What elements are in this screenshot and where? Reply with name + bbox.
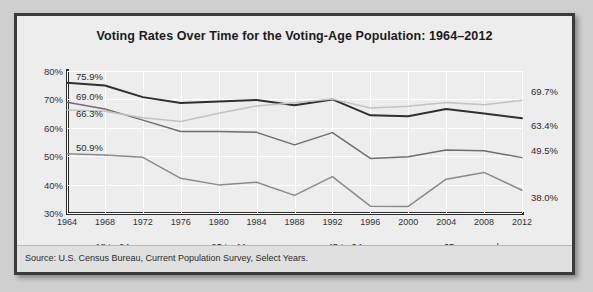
gridline-horizontal	[67, 213, 522, 214]
x-tick-label: 1980	[199, 217, 239, 227]
y-tick-label: 40%	[21, 179, 63, 190]
x-tick-label: 1964	[47, 217, 87, 227]
series-line	[67, 83, 522, 119]
chart-title: Voting Rates Over Time for the Voting-Ag…	[17, 29, 572, 43]
x-tick-label: 2004	[426, 217, 466, 227]
source-bar: Source: U.S. Census Bureau, Current Popu…	[17, 245, 572, 272]
x-tick-label: 1976	[161, 217, 201, 227]
data-label: 69.7%	[531, 86, 558, 97]
x-tick-label: 1996	[350, 217, 390, 227]
data-label: 50.9%	[76, 142, 103, 153]
x-tick-label: 2008	[464, 217, 504, 227]
data-label: 63.4%	[531, 120, 558, 131]
source-note: Source: U.S. Census Bureau, Current Popu…	[25, 253, 308, 263]
x-tick-label: 1968	[85, 217, 125, 227]
x-tick-label: 2012	[502, 217, 542, 227]
y-tick-label: 70%	[21, 94, 63, 105]
data-label: 49.5%	[531, 145, 558, 156]
y-tick-label: 60%	[21, 122, 63, 133]
x-tick-label: 1992	[312, 217, 352, 227]
y-tick-label: 80%	[21, 66, 63, 77]
gridline-vertical	[522, 71, 523, 213]
x-tick-label: 1988	[275, 217, 315, 227]
x-tick-label: 1972	[123, 217, 163, 227]
series-line	[67, 154, 522, 207]
x-tick-label: 2000	[388, 217, 428, 227]
series-lines	[67, 71, 522, 213]
plot-area	[67, 71, 522, 213]
data-label: 38.0%	[531, 192, 558, 203]
data-label: 75.9%	[76, 71, 103, 82]
data-label: 69.0%	[76, 91, 103, 102]
chart-inner: Voting Rates Over Time for the Voting-Ag…	[17, 16, 572, 272]
chart-card: Voting Rates Over Time for the Voting-Ag…	[14, 13, 575, 275]
data-label: 66.3%	[76, 108, 103, 119]
y-tick-label: 50%	[21, 151, 63, 162]
x-tick-label: 1984	[237, 217, 277, 227]
